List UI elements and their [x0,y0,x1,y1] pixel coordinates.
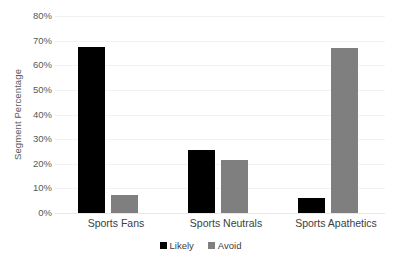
legend-item[interactable]: Avoid [208,240,242,251]
y-axis-tick-label: 0% [22,208,52,218]
bar-group [275,16,385,213]
y-axis-tick-label: 10% [22,183,52,193]
bar[interactable] [221,160,248,213]
bar-group [165,16,275,213]
legend-swatch-icon [208,242,215,249]
y-axis-tick-labels: 0%10%20%30%40%50%60%70%80% [22,0,52,264]
bar[interactable] [111,195,138,213]
legend-swatch-icon [160,242,167,249]
chart-legend: LikelyAvoid [0,238,401,252]
x-axis-category-labels: Sports FansSports NeutralsSports Apathet… [55,215,385,231]
legend-label: Likely [170,240,194,251]
bar-group [55,16,165,213]
bar[interactable] [78,47,105,213]
legend-label: Avoid [218,240,242,251]
axis-baseline [55,213,385,214]
plot-area [55,16,385,213]
bar-chart: Segment Percentage 0%10%20%30%40%50%60%7… [0,0,401,264]
y-axis-tick-label: 30% [22,134,52,144]
x-axis-category-label: Sports Neutrals [165,215,275,231]
y-axis-tick-label: 40% [22,110,52,120]
y-axis-tick-label: 70% [22,36,52,46]
bar-groups [55,16,385,213]
x-axis-category-label: Sports Fans [55,215,165,231]
x-axis-category-label: Sports Apathetics [275,215,385,231]
legend-item[interactable]: Likely [160,240,194,251]
bar[interactable] [331,48,358,213]
bar[interactable] [188,150,215,213]
y-axis-tick-label: 60% [22,60,52,70]
y-axis-tick-label: 80% [22,11,52,21]
bar[interactable] [298,198,325,213]
y-axis-tick-label: 50% [22,85,52,95]
y-axis-tick-label: 20% [22,159,52,169]
